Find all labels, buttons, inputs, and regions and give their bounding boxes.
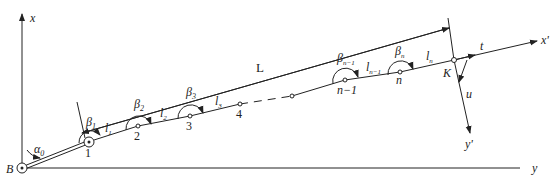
- y-prime-label: y': [464, 137, 473, 151]
- l3-label: l3: [215, 94, 222, 110]
- beta-n-label: βn: [394, 44, 405, 60]
- point-n1-label: n−1: [337, 83, 357, 97]
- alpha0-label: α0: [34, 142, 44, 158]
- l1-label: l1: [105, 121, 112, 137]
- x-axis-label: x: [29, 11, 36, 25]
- ln-label: ln: [426, 49, 433, 65]
- origin-label: B: [6, 162, 14, 176]
- point-1-label: 1: [85, 146, 91, 160]
- point-3-label: 3: [186, 119, 192, 133]
- y-axis-label: y: [531, 161, 538, 175]
- L-label: L: [256, 60, 264, 75]
- beta-n1-label: βn−1: [336, 51, 355, 67]
- traverse-diagram: x y B α0 β1 β2 β3 βn−1 βn l1 l2 l3: [0, 0, 553, 183]
- point-4-label: 4: [236, 107, 242, 121]
- beta1-label: β1: [85, 115, 96, 131]
- point-n-label: n: [396, 73, 402, 87]
- t-label: t: [480, 39, 484, 53]
- beta3-label: β3: [185, 85, 196, 101]
- K-label: K: [442, 66, 452, 80]
- beta2-label: β2: [133, 97, 144, 113]
- u-label: u: [466, 87, 472, 101]
- ln1-label: ln−1: [366, 60, 381, 76]
- x-prime-label: x': [540, 33, 549, 47]
- point-2-label: 2: [134, 129, 140, 143]
